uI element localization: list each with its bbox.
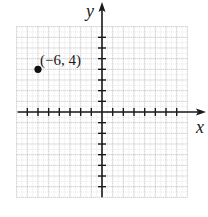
coordinate-plane: (−6, 4) x y — [0, 0, 208, 217]
plotted-points: (−6, 4) — [34, 52, 81, 73]
axes — [18, 2, 206, 197]
y-axis-label: y — [84, 1, 94, 21]
x-axis-label: x — [195, 117, 204, 137]
point-label: (−6, 4) — [40, 52, 81, 69]
